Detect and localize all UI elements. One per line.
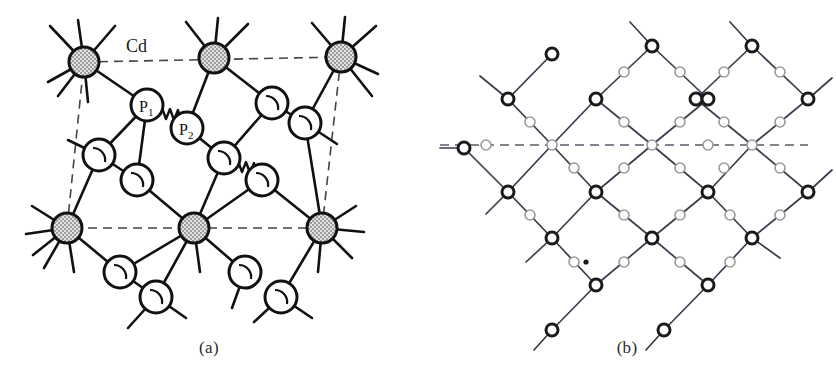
midpoint-node-on-mirror[interactable] (647, 140, 657, 150)
vertex-node[interactable] (458, 142, 470, 154)
p-atom-left-mid[interactable] (83, 139, 115, 171)
vertex-node[interactable] (690, 93, 702, 105)
vertex-node[interactable] (802, 186, 814, 198)
vertex-node[interactable] (802, 93, 814, 105)
panel-a-crystal-structure: Cd P1 P2 (a) (0, 0, 418, 372)
midpoint-node[interactable] (525, 117, 535, 127)
p-atom-bottom-b[interactable] (140, 281, 172, 313)
midpoint-node[interactable] (775, 67, 785, 77)
midpoint-node[interactable] (619, 210, 629, 220)
midpoint-node[interactable] (775, 210, 785, 220)
p-atom-right-upper[interactable] (289, 107, 321, 139)
vertex-node[interactable] (646, 232, 658, 244)
midpoint-node[interactable] (569, 257, 579, 267)
panel-b-svg (418, 0, 836, 372)
midpoint-node[interactable] (775, 163, 785, 173)
vertex-node[interactable] (590, 186, 602, 198)
midpoint-node-on-mirror[interactable] (747, 140, 757, 150)
midpoint-node[interactable] (525, 210, 535, 220)
cd-bottom-right[interactable] (307, 213, 337, 243)
midpoint-node[interactable] (619, 117, 629, 127)
p-atom-upper-right[interactable] (256, 87, 288, 119)
lattice-bond-lines (464, 46, 808, 330)
vertex-node[interactable] (702, 279, 714, 291)
cd-top-left[interactable] (69, 47, 99, 77)
midpoint-node-on-mirror[interactable] (703, 140, 713, 150)
panel-b-caption: (b) (418, 338, 836, 358)
midpoint-node[interactable] (725, 210, 735, 220)
midpoint-node[interactable] (675, 257, 685, 267)
midpoint-node[interactable] (675, 163, 685, 173)
vertex-node[interactable] (546, 324, 558, 336)
midpoint-node[interactable] (675, 117, 685, 127)
vertex-node[interactable] (590, 279, 602, 291)
panel-b-lattice-schematic: (b) (418, 0, 836, 372)
midpoint-node[interactable] (569, 163, 579, 173)
vertex-node[interactable] (746, 40, 758, 52)
vertex-node[interactable] (546, 48, 558, 60)
p-atom-center-right[interactable] (208, 142, 240, 174)
cd-top-mid[interactable] (199, 43, 229, 73)
cd-top-right[interactable] (326, 42, 356, 72)
midpoint-node[interactable] (719, 67, 729, 77)
midpoint-node[interactable] (775, 117, 785, 127)
vertex-node[interactable] (646, 40, 658, 52)
free-bond-stubs-panel-b (440, 22, 832, 350)
cd-label: Cd (126, 36, 147, 56)
midpoint-node[interactable] (675, 210, 685, 220)
vertex-node[interactable] (590, 93, 602, 105)
vertex-node[interactable] (746, 232, 758, 244)
p-atom-right-lower[interactable] (246, 164, 278, 196)
midpoint-node-on-mirror[interactable] (481, 140, 491, 150)
p-atom-bottom-d[interactable] (265, 281, 297, 313)
vertex-node[interactable] (702, 93, 714, 105)
midpoint-node[interactable] (619, 257, 629, 267)
midpoint-node[interactable] (725, 257, 735, 267)
midpoint-node[interactable] (619, 67, 629, 77)
p-atom-mid-lower[interactable] (121, 164, 153, 196)
midpoint-nodes-group (481, 67, 785, 267)
midpoint-node[interactable] (619, 163, 629, 173)
vertex-node[interactable] (702, 186, 714, 198)
p-atom-bottom-c[interactable] (229, 256, 261, 288)
origin-dot-marker (583, 259, 588, 264)
midpoint-node[interactable] (675, 67, 685, 77)
p-atom-bottom-a[interactable] (104, 256, 136, 288)
vertex-node[interactable] (502, 93, 514, 105)
vertex-nodes-group (458, 40, 814, 336)
cd-bottom-left[interactable] (52, 213, 82, 243)
figure-root: Cd P1 P2 (a) (0, 0, 836, 372)
cd-bottom-mid[interactable] (179, 213, 209, 243)
vertex-node[interactable] (502, 186, 514, 198)
midpoint-node-on-mirror[interactable] (547, 140, 557, 150)
midpoint-node[interactable] (719, 117, 729, 127)
midpoint-node[interactable] (719, 163, 729, 173)
vertex-node[interactable] (658, 324, 670, 336)
panel-a-caption: (a) (0, 338, 418, 358)
panel-a-svg: Cd P1 P2 (0, 0, 418, 372)
vertex-node[interactable] (546, 232, 558, 244)
svg-text:Cd: Cd (126, 36, 147, 56)
